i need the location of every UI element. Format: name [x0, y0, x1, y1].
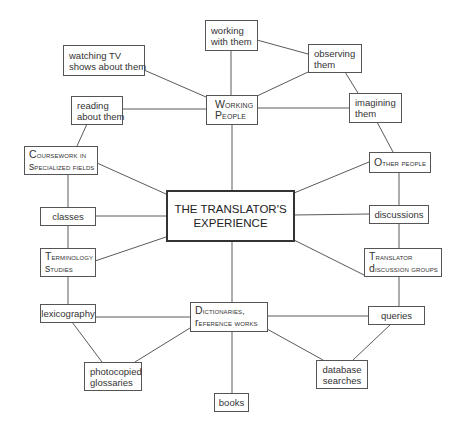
center-node-line2: EXPERIENCE	[193, 216, 267, 230]
edge-imagining-other-people	[377, 122, 393, 152]
node-translator-discussion-groups: Translator discussion groups	[364, 248, 442, 277]
edge-center-other-people	[294, 162, 369, 193]
node-label: books	[219, 397, 244, 408]
edge-observing-working-people	[257, 72, 308, 96]
node-lexicography: lexicography	[40, 304, 96, 323]
edge-dictionaries-database	[267, 329, 323, 360]
edge-dictionaries-photocopied	[135, 328, 190, 362]
node-label: glossaries	[90, 377, 136, 388]
node-label: imagining	[355, 97, 396, 108]
node-label: working	[211, 25, 252, 36]
node-label: with them	[211, 36, 252, 47]
node-label: watching TV	[69, 50, 139, 61]
node-working-with-them: working with them	[205, 20, 258, 51]
node-label: People	[215, 110, 252, 121]
node-label: lexicography	[41, 308, 94, 319]
edge-queries-database	[353, 324, 391, 360]
node-label: photocopied	[90, 366, 136, 377]
node-label: database	[322, 364, 361, 375]
node-discussions: discussions	[369, 205, 429, 224]
node-label: queries	[381, 310, 412, 321]
node-dictionaries: Dictionaries, reference works	[190, 302, 268, 332]
node-label: reference works	[195, 317, 263, 329]
node-label: classes	[52, 211, 84, 222]
node-label: shows about them	[69, 61, 139, 72]
edge-reading-coursework	[77, 124, 87, 146]
node-watching-tv: watching TV shows about them	[63, 45, 145, 76]
edge-watching-tv-working-people	[144, 70, 206, 97]
edge-center-discussions	[294, 214, 369, 215]
node-reading-about-them: reading about them	[71, 96, 123, 125]
center-node-line1: THE TRANSLATOR'S	[174, 202, 286, 216]
node-photocopied-glossaries: photocopied glossaries	[84, 362, 142, 391]
node-label: observing	[314, 48, 356, 59]
node-queries: queries	[368, 306, 425, 325]
node-label: about them	[77, 111, 117, 122]
node-label: them	[355, 108, 396, 119]
edge-lexicography-photocopied	[72, 322, 102, 362]
edge-working-with-them-observing	[257, 40, 308, 54]
edge-coursework-center	[97, 163, 166, 194]
node-label: searches	[323, 375, 362, 386]
edge-terminology-center	[95, 237, 166, 261]
node-label: Dictionaries,	[195, 305, 263, 317]
node-working-people: Working People	[206, 95, 258, 125]
edge-center-translator-groups	[294, 240, 364, 275]
node-label: Coursework in	[29, 149, 93, 161]
node-label: them	[314, 59, 356, 70]
node-database-searches: database searches	[316, 360, 368, 389]
node-label: Other people	[374, 157, 426, 169]
node-books: books	[214, 393, 249, 412]
node-imagining-them: imagining them	[349, 93, 402, 123]
node-classes: classes	[40, 207, 96, 226]
node-label: reading	[77, 100, 117, 111]
node-other-people: Other people	[369, 152, 431, 173]
node-coursework: Coursework in specialized fields	[24, 146, 98, 175]
node-terminology-studies: Terminology studies	[40, 248, 96, 277]
center-node-translators-experience: THE TRANSLATOR'S EXPERIENCE	[166, 190, 295, 242]
node-label: specialized fields	[29, 161, 93, 173]
node-label: discussions	[374, 209, 423, 220]
node-label: Translator	[369, 251, 437, 263]
node-label: studies	[45, 263, 91, 275]
node-label: Terminology	[45, 251, 91, 263]
node-label: discussion groups	[369, 263, 437, 275]
edge-observing-imagining	[345, 72, 358, 93]
node-observing-them: observing them	[308, 44, 362, 73]
